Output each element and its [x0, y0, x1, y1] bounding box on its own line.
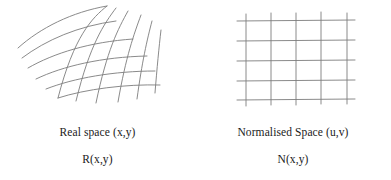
figure-root: Real space (x,y) R(x,y) — [0, 0, 391, 180]
grid-line-h-3 — [237, 80, 355, 81]
mesh-line-v-5 — [155, 30, 161, 93]
panel-normalised-space: Normalised Space (u,v) N(x,y) — [195, 0, 391, 180]
mesh-line-v-0 — [58, 6, 107, 98]
grid-line-h-0 — [237, 20, 355, 21]
real-space-function-label: R(x,y) — [0, 153, 195, 166]
grid-line-h-1 — [237, 40, 355, 41]
mesh-line-u-5 — [58, 85, 160, 98]
regular-grid-svg — [195, 0, 391, 118]
normalised-space-caption: Normalised Space (u,v) — [195, 126, 391, 139]
grid-line-h-2 — [237, 60, 355, 61]
curved-mesh-svg — [0, 0, 195, 118]
curved-mesh-figure — [0, 0, 195, 118]
mesh-line-u-0 — [18, 6, 107, 48]
panel-real-space: Real space (x,y) R(x,y) — [0, 0, 195, 180]
regular-grid-figure — [195, 0, 391, 118]
mesh-line-u-1 — [22, 21, 116, 58]
normalised-space-function-label: N(x,y) — [195, 153, 391, 166]
mesh-line-u-3 — [36, 56, 147, 79]
grid-line-h-4 — [237, 99, 355, 100]
mesh-line-v-4 — [137, 21, 152, 99]
mesh-line-v-3 — [118, 15, 141, 102]
real-space-caption: Real space (x,y) — [0, 126, 195, 139]
